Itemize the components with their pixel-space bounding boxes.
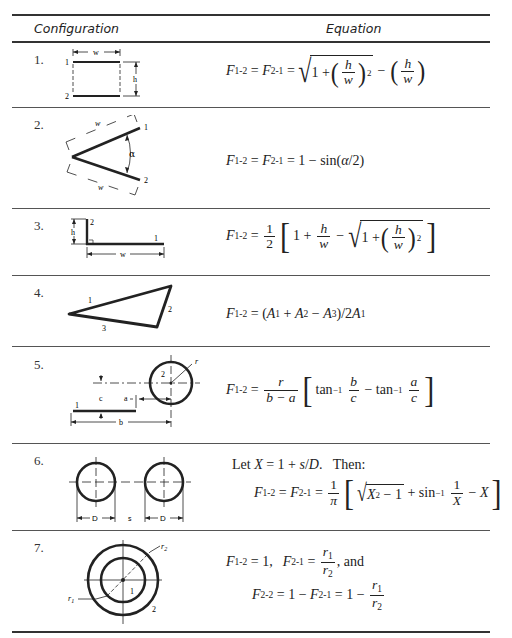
label-surface-1: 1	[88, 296, 92, 305]
row-number: 6.	[34, 453, 44, 469]
label-h: h	[71, 228, 75, 237]
equation-3: F1-2 = 12 [ 1 + hw − √ 1 + (hw)2 ]	[226, 220, 439, 252]
header-equation: Equation	[326, 21, 381, 36]
parallel-cylinders-diagram: D s D	[66, 455, 196, 525]
equation-5: F1-2 = rb − a [ tan−1 bc − tan−1 ac ]	[226, 375, 437, 405]
label-b: b	[119, 418, 123, 427]
label-d-right: D	[160, 514, 166, 523]
triangle-enclosure-diagram: 1 2 3	[64, 283, 176, 333]
plate-and-cylinder-diagram: r c a b 1 2	[68, 355, 208, 427]
row-divider	[12, 443, 490, 444]
sqrt: √ 1 + (hw)2	[298, 55, 373, 87]
label-c: c	[99, 394, 103, 403]
label-w: w	[93, 48, 99, 57]
perpendicular-plates-diagram: h w 2 1	[68, 218, 168, 260]
label-surface-2: 2	[168, 305, 172, 314]
label-surface-3: 3	[102, 324, 106, 333]
equation-2: F1-2 = F2-1 = 1 − sin(α/2)	[226, 153, 364, 169]
label-surface-1: 1	[65, 58, 69, 67]
header-configuration: Configuration	[34, 21, 119, 36]
label-surface-2: 2	[152, 605, 156, 614]
concentric-cylinders-diagram: r2 r1 1 2	[66, 538, 176, 626]
label-w-top: w	[95, 119, 101, 128]
row-number: 5.	[34, 357, 44, 373]
sqrt: √ 1 + (hw)2	[348, 220, 423, 252]
sqrt: √ X2 − 1	[357, 483, 404, 504]
label-d-left: D	[92, 514, 98, 523]
equation-4: F1-2 = ( A1 + A2 − A3 )/2 A1	[226, 306, 365, 322]
row-number: 3.	[34, 218, 44, 234]
inclined-plates-diagram: w w α 1 2	[60, 115, 160, 200]
label-surface-2: 2	[144, 176, 148, 185]
row-number: 4.	[34, 285, 44, 301]
row-divider	[12, 530, 490, 531]
equation-6-let: Let X = 1 + s/D . Then:	[232, 457, 365, 473]
label-alpha: α	[129, 149, 135, 159]
label-surface-1: 1	[154, 234, 158, 243]
header-bottom-rule	[12, 41, 490, 43]
table-bottom-rule	[12, 631, 490, 633]
row-number: 1.	[34, 52, 44, 68]
label-w: w	[120, 250, 126, 259]
label-surface-1: 1	[75, 401, 79, 410]
label-surface-1: 1	[144, 123, 148, 132]
equation-7-line-2: F2-2 = 1 − F2-1 = 1 − r1r2	[252, 578, 386, 613]
label-r1: r1	[68, 594, 74, 604]
equation-6: F1-2 = F2-1 = 1π [ √ X2 − 1 + sin−1 1X −…	[254, 478, 504, 508]
label-a: a	[124, 394, 128, 403]
label-s: s	[128, 515, 132, 522]
label-surface-2: 2	[65, 92, 69, 100]
label-surface-2: 2	[90, 218, 94, 227]
label-r2: r2	[161, 542, 167, 552]
label-r: r	[195, 357, 199, 366]
label-w-bottom: w	[98, 183, 104, 192]
parallel-plates-diagram: w h 1 2	[60, 48, 150, 100]
row-divider	[12, 275, 490, 276]
row-number: 7.	[34, 540, 44, 556]
label-h: h	[133, 75, 137, 84]
row-divider	[12, 208, 490, 209]
table-top-rule	[12, 14, 490, 16]
label-surface-2: 2	[161, 370, 165, 379]
row-number: 2.	[34, 117, 44, 133]
equation-7-line-1: F1-2 = 1, F2-1 = r1r2 , and	[226, 545, 364, 580]
equation-1: F1-2 = F2-1 = √ 1 + (hw)2 − (hw)	[226, 55, 426, 87]
label-surface-1: 1	[130, 587, 134, 596]
row-divider	[12, 346, 490, 347]
row-divider	[12, 107, 490, 108]
